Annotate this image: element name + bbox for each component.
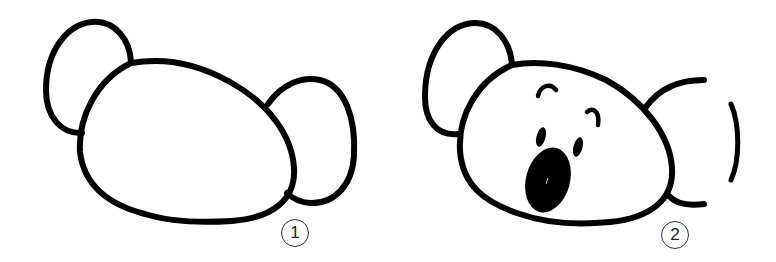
- step-number-badge: 2: [661, 221, 689, 249]
- head-oval: [460, 63, 672, 224]
- step-1-panel: 1: [0, 0, 388, 262]
- right-ear-bottom: [669, 196, 704, 205]
- koala-outline-drawing: [0, 0, 388, 262]
- right-ear-side: [731, 104, 738, 180]
- head-oval: [80, 61, 294, 222]
- right-eye: [571, 136, 585, 158]
- left-eyebrow: [538, 86, 556, 96]
- right-ear: [268, 79, 354, 203]
- left-ear: [425, 23, 512, 134]
- step-2-panel: 2: [388, 0, 776, 262]
- open-mouth: [518, 142, 578, 217]
- left-eye: [534, 126, 548, 148]
- koala-face-drawing: [388, 0, 776, 262]
- right-ear-top: [646, 80, 704, 107]
- step-number-badge: 1: [281, 219, 309, 247]
- right-eyebrow: [587, 110, 598, 125]
- left-ear: [46, 22, 131, 133]
